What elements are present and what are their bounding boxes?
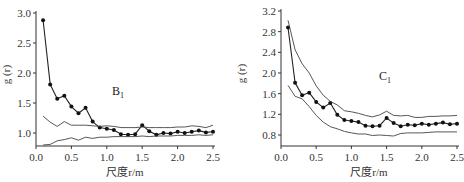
data-point	[112, 128, 116, 132]
data-point	[434, 122, 438, 126]
chart-panel-c1: 0.81.21.62.02.42.83.20.00.51.01.52.02.5尺…	[232, 0, 464, 182]
x-tick-label: 0.5	[309, 151, 323, 163]
data-point	[197, 129, 201, 133]
data-point	[448, 122, 452, 126]
chart-b1: 1.01.52.02.53.00.00.51.01.52.02.5尺度r/mg …	[0, 0, 232, 182]
data-point	[356, 120, 360, 124]
y-tick-label: 1.5	[17, 97, 31, 109]
data-point	[392, 121, 396, 125]
x-axis-title: 尺度r/m	[106, 165, 144, 178]
data-point	[399, 124, 403, 128]
y-tick-label: 0.8	[262, 129, 276, 141]
data-point	[342, 118, 346, 122]
data-point	[105, 127, 109, 131]
data-point	[48, 82, 52, 86]
data-point	[363, 124, 367, 128]
data-point	[307, 91, 311, 95]
x-tick-label: 0.0	[29, 151, 43, 163]
data-point	[204, 130, 208, 134]
data-point	[371, 124, 375, 128]
data-point	[420, 122, 424, 126]
data-point	[378, 124, 382, 128]
data-point	[385, 116, 389, 120]
x-tick-label: 2.5	[450, 151, 464, 163]
data-point	[76, 111, 80, 115]
x-tick-label: 1.0	[100, 151, 114, 163]
data-point	[55, 97, 59, 101]
data-point	[176, 130, 180, 134]
data-point	[147, 129, 151, 133]
y-tick-label: 1.2	[262, 108, 276, 120]
data-point	[211, 130, 215, 134]
data-point	[119, 132, 123, 136]
data-point	[335, 113, 339, 117]
data-point	[84, 106, 88, 110]
data-point	[293, 81, 297, 85]
series-lower-envelope	[43, 135, 213, 145]
data-point	[441, 121, 445, 125]
data-point	[349, 119, 353, 123]
plot-area: 1.01.52.02.53.00.00.51.01.52.02.5尺度r/mg …	[0, 7, 220, 178]
data-point	[161, 131, 165, 135]
y-tick-label: 3.2	[262, 5, 276, 17]
series-lower-envelope	[288, 85, 457, 136]
y-tick-label: 3.0	[17, 7, 31, 19]
data-point	[183, 131, 187, 135]
data-point	[455, 122, 459, 126]
series-upper-envelope	[43, 116, 213, 127]
x-tick-label: 1.5	[380, 151, 394, 163]
x-tick-label: 1.5	[135, 151, 149, 163]
y-axis-title: g (r)	[235, 64, 248, 84]
data-point	[69, 105, 73, 109]
data-point	[41, 18, 45, 22]
y-tick-label: 1.0	[17, 127, 31, 139]
data-point	[427, 123, 431, 127]
y-tick-label: 2.4	[262, 46, 276, 58]
data-point	[169, 132, 173, 136]
y-axis-title: g (r)	[0, 65, 13, 85]
x-tick-label: 0.5	[65, 151, 79, 163]
data-point	[314, 100, 318, 104]
data-point	[91, 120, 95, 124]
chart-panel-b1: 1.01.52.02.53.00.00.51.01.52.02.5尺度r/mg …	[0, 0, 232, 182]
panel-label: C1	[379, 69, 391, 85]
y-tick-label: 2.8	[262, 26, 276, 38]
data-point	[321, 106, 325, 110]
x-tick-label: 1.0	[345, 151, 359, 163]
y-tick-label: 1.6	[262, 88, 276, 100]
series-observed-line	[43, 20, 213, 135]
x-tick-label: 2.5	[206, 151, 220, 163]
y-tick-label: 2.0	[262, 67, 276, 79]
panel-label: B1	[112, 84, 124, 100]
data-point	[413, 123, 417, 127]
x-tick-label: 2.0	[415, 151, 429, 163]
y-tick-label: 2.0	[17, 67, 31, 79]
data-point	[406, 123, 410, 127]
data-point	[133, 132, 137, 136]
x-tick-label: 0.0	[274, 151, 288, 163]
data-point	[300, 93, 304, 97]
data-point	[62, 94, 66, 98]
series-upper-envelope	[288, 20, 457, 117]
plot-area: 0.81.21.62.02.42.83.20.00.51.01.52.02.5尺…	[235, 5, 464, 178]
x-tick-label: 2.0	[171, 151, 185, 163]
data-point	[190, 130, 194, 134]
x-axis-title: 尺度r/m	[350, 165, 388, 178]
chart-c1: 0.81.21.62.02.42.83.20.00.51.01.52.02.5尺…	[232, 0, 464, 182]
y-tick-label: 2.5	[17, 37, 31, 49]
